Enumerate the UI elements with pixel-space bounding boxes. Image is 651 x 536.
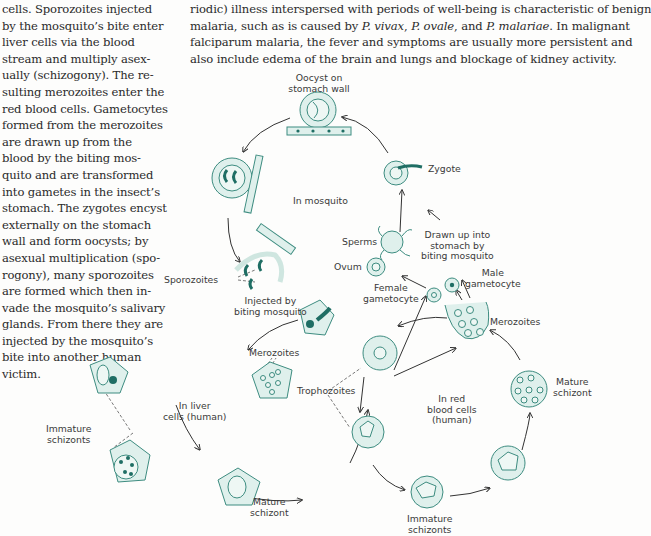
label-sporozoites: Sporozoites bbox=[164, 275, 218, 286]
label-drawn-up: Drawn up intostomach bybiting mosquito bbox=[421, 230, 494, 262]
leader-lines bbox=[105, 270, 361, 448]
sperm-cell bbox=[381, 231, 403, 253]
label-oocyst: Oocyst onstomach wall bbox=[288, 73, 350, 94]
label-sperms: Sperms bbox=[342, 237, 377, 248]
label-trophozoites: Trophozoites bbox=[297, 386, 355, 397]
label-in-liver: In livercells (human) bbox=[163, 401, 226, 422]
label-merozoites-rbc: Merozoites bbox=[490, 317, 540, 328]
label-in-red-blood-cells: In redblood cells(human) bbox=[427, 394, 477, 426]
label-merozoites-liver: Merozoites bbox=[249, 348, 299, 359]
label-in-mosquito: In mosquito bbox=[293, 196, 348, 207]
label-immature-schizonts-rbc: Immatureschizonts bbox=[407, 514, 452, 535]
label-injected: Injected bybiting mosquito bbox=[234, 296, 307, 317]
label-immature-schizonts-liver: Immatureschizonts bbox=[46, 424, 91, 445]
label-zygote: Zygote bbox=[428, 164, 461, 175]
label-female-gametocyte: Femalegametocyte bbox=[363, 283, 419, 304]
label-mature-schizont-rbc: Matureschizont bbox=[553, 377, 592, 398]
cells bbox=[90, 92, 547, 508]
label-ovum: Ovum bbox=[334, 262, 362, 273]
label-mature-schizont-liver: Matureschizont bbox=[250, 497, 289, 518]
label-male-gametocyte: Malegametocyte bbox=[465, 268, 521, 289]
